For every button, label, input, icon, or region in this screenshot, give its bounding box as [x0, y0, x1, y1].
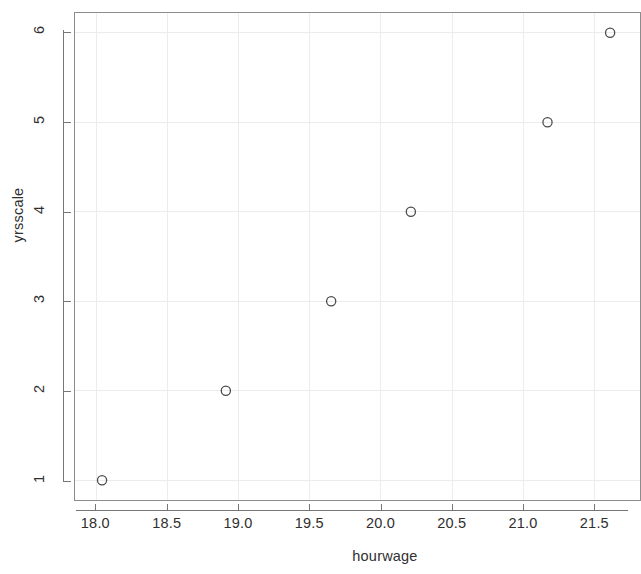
data-point [406, 207, 415, 216]
y-tick-label: 6 [31, 19, 47, 41]
x-tick-label: 20.5 [422, 515, 482, 531]
x-tick-mark [95, 504, 96, 511]
data-points-layer [75, 13, 640, 500]
x-tick-mark [238, 504, 239, 511]
x-axis-title-label: hourwage [352, 548, 417, 564]
data-point [543, 118, 552, 127]
x-tick-mark [381, 504, 382, 511]
x-axis-title: hourwage [0, 548, 628, 564]
plot-panel [74, 12, 640, 501]
x-tick-label: 21.5 [564, 515, 624, 531]
y-axis-title: yrsscale [10, 175, 26, 255]
y-tick-mark [63, 122, 71, 123]
x-tick-label: 18.0 [65, 515, 125, 531]
data-point [606, 28, 615, 37]
y-tick-mark [63, 391, 71, 392]
y-tick-mark [63, 32, 71, 33]
x-tick-mark [452, 504, 453, 511]
y-tick-label: 1 [31, 468, 47, 490]
x-tick-mark [167, 504, 168, 511]
y-tick-label: 2 [31, 378, 47, 400]
x-tick-label: 19.5 [279, 515, 339, 531]
x-tick-mark [523, 504, 524, 511]
x-tick-label: 18.5 [137, 515, 197, 531]
y-tick-label: 4 [31, 199, 47, 221]
data-point [97, 476, 106, 485]
data-point [327, 297, 336, 306]
y-tick-mark [63, 301, 71, 302]
x-tick-mark [594, 504, 595, 511]
x-tick-label: 19.0 [208, 515, 268, 531]
data-point [221, 386, 230, 395]
x-tick-label: 21.0 [493, 515, 553, 531]
y-tick-mark [63, 212, 71, 213]
y-tick-label: 5 [31, 109, 47, 131]
x-tick-mark [309, 504, 310, 511]
y-tick-mark [63, 481, 71, 482]
y-axis-line [63, 30, 64, 482]
y-tick-label: 3 [31, 288, 47, 310]
x-axis-line [76, 510, 628, 511]
x-tick-label: 20.0 [351, 515, 411, 531]
